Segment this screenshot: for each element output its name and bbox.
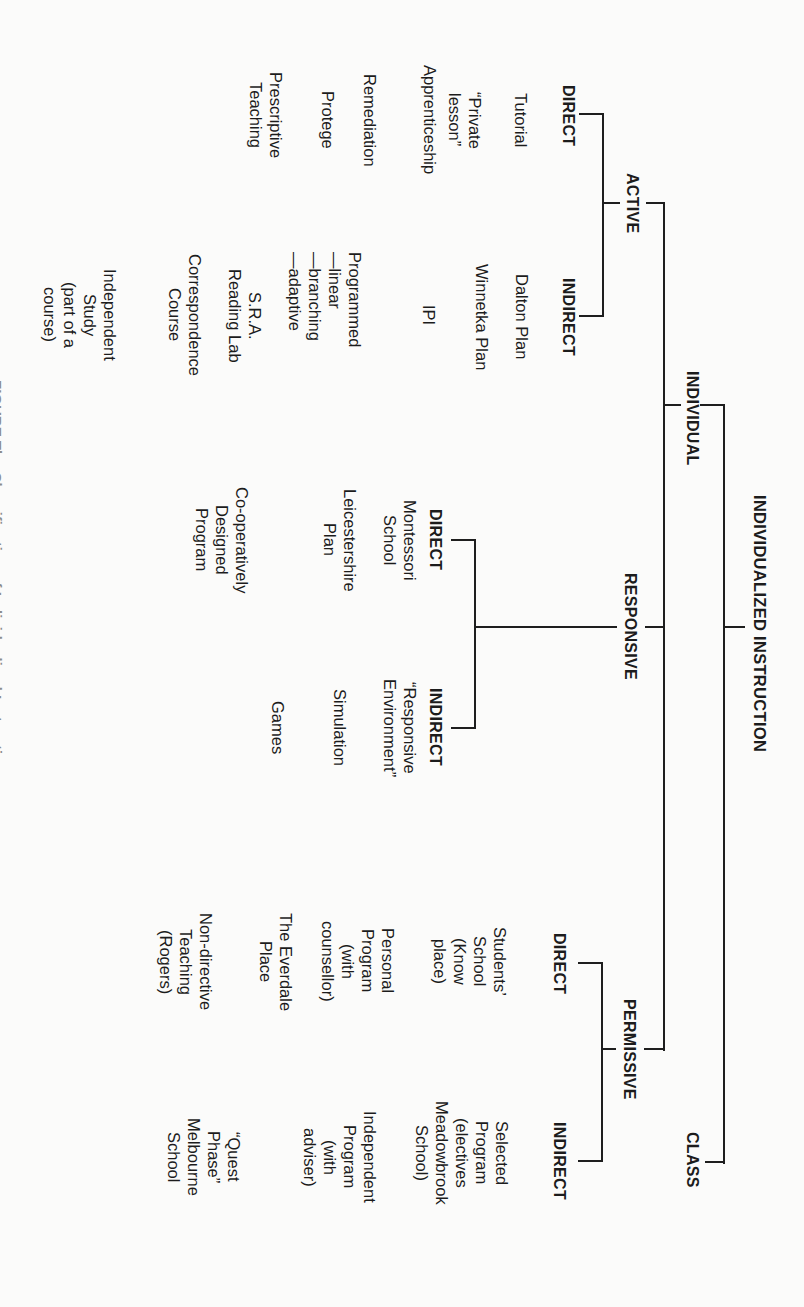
active-stub-right xyxy=(646,202,665,204)
responsive-direct-stub xyxy=(451,539,476,541)
item-montessori-school: Montessori School xyxy=(380,470,420,610)
class-stub xyxy=(705,1161,725,1163)
item-leicestershire-plan: Leicestershire Plan xyxy=(320,470,360,610)
item-games: Games xyxy=(268,658,288,798)
figure-caption: FIGURE The Classification of Individuali… xyxy=(0,380,5,1280)
item-selected-program: Selected Program (electives Meadowbrook … xyxy=(412,1086,512,1220)
item-prescriptive-teaching: Prescriptive Teaching xyxy=(246,40,286,190)
active-indirect-label: INDIRECT xyxy=(558,266,578,368)
item-independent-study: Independent Study (part of a course) xyxy=(40,240,120,390)
individual-label: INDIVIDUAL xyxy=(682,366,702,471)
responsive-indirect-label: INDIRECT xyxy=(425,676,445,778)
item-non-directive-teaching: Non-directive Teaching (Rogers) xyxy=(156,892,216,1032)
responsive-stub-right xyxy=(645,626,664,628)
permissive-direct-label: DIRECT xyxy=(549,924,569,1004)
item-quest-phase: “Quest Phase” Melbourne School xyxy=(164,1092,244,1222)
item-simulation: Simulation xyxy=(330,658,350,798)
item-programmed: Programmed —linear —branching —adaptive xyxy=(285,252,365,382)
permissive-stub-right xyxy=(644,1048,664,1050)
class-label: CLASS xyxy=(682,1125,702,1195)
permissive-stub-left xyxy=(602,1048,616,1050)
permissive-label: PERMISSIVE xyxy=(619,985,639,1113)
item-winnetka-plan: Winnetka Plan xyxy=(472,240,492,394)
item-co-operatively-designed-program: Co-operatively Designed Program xyxy=(192,466,252,614)
active-direct-label: DIRECT xyxy=(558,76,578,156)
active-bracket-line xyxy=(602,113,604,317)
active-indirect-stub xyxy=(579,315,604,317)
item-dalton-plan: Dalton Plan xyxy=(512,240,532,394)
item-everdale-place: The Everdale Place xyxy=(256,892,296,1032)
individual-stub xyxy=(700,404,725,406)
item-ipi: IPI xyxy=(419,240,439,390)
responsive-indirect-stub xyxy=(451,727,476,729)
item-students-school: Students’ School (Know place) xyxy=(430,896,510,1026)
item-remediation: Remediation xyxy=(360,40,380,200)
root-vertical-line xyxy=(723,404,725,1164)
permissive-direct-stub xyxy=(578,962,603,964)
permissive-indirect-label: INDIRECT xyxy=(549,1110,569,1212)
responsive-direct-label: DIRECT xyxy=(425,500,445,580)
item-tutorial: Tutorial xyxy=(511,40,531,200)
item-protege: Protege xyxy=(318,40,338,200)
item-sra-reading-lab: S.R.A. Reading Lab xyxy=(225,240,265,392)
active-label: ACTIVE xyxy=(622,165,642,241)
item-private-lesson: “Private lesson” xyxy=(445,40,485,200)
individual-tick-left xyxy=(663,404,681,406)
root-tick xyxy=(723,626,745,628)
active-stub-left xyxy=(603,202,620,204)
item-independent-program: Independent Program (with adviser) xyxy=(300,1092,380,1222)
item-apprenticeship: Apprenticeship xyxy=(420,40,440,200)
responsive-label: RESPONSIVE xyxy=(620,562,640,692)
active-direct-stub xyxy=(579,113,604,115)
responsive-bracket-line xyxy=(474,539,476,729)
permissive-indirect-stub xyxy=(578,1160,603,1162)
permissive-bracket-line xyxy=(601,962,603,1162)
root-label: INDIVIDUALIZED INSTRUCTION xyxy=(750,464,770,784)
item-responsive-environment: “Responsive Environment” xyxy=(380,658,420,798)
item-personal-program: Personal Program (with counsellor) xyxy=(318,896,398,1026)
item-correspondence-course: Correspondence Course xyxy=(165,230,205,400)
responsive-stub-left xyxy=(475,626,617,628)
